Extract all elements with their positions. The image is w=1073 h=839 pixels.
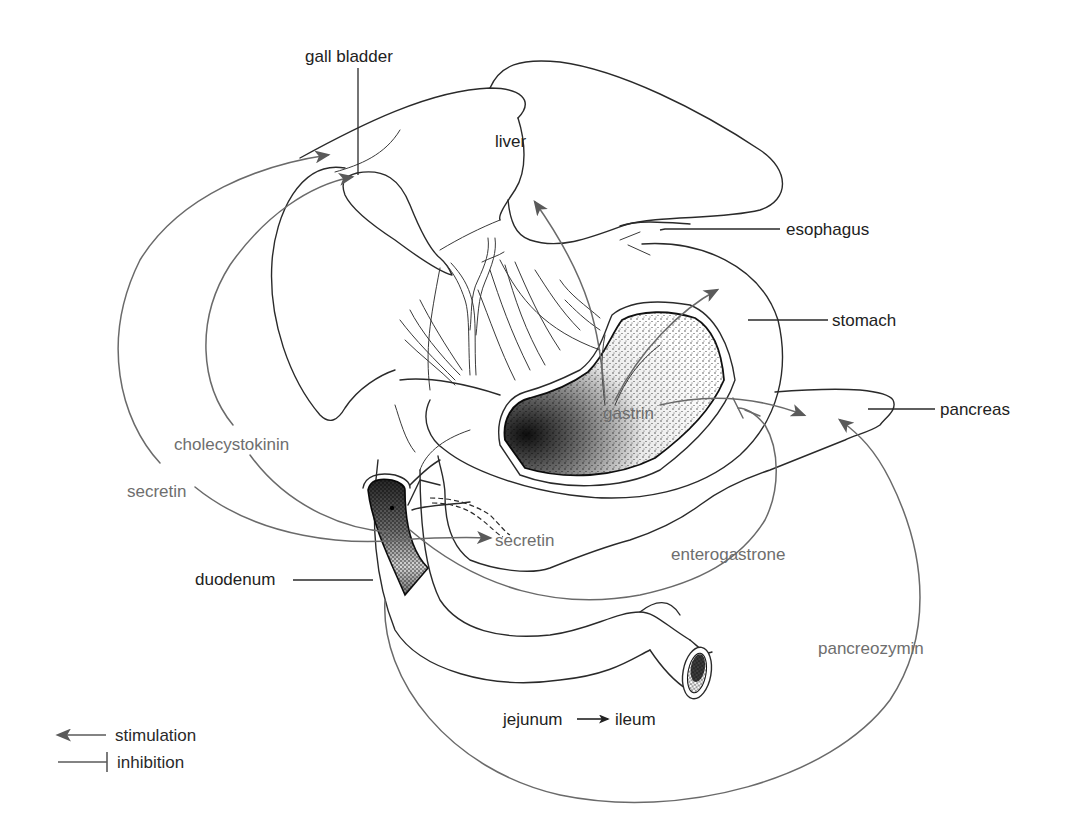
- legend-inhibition-label: inhibition: [117, 753, 184, 772]
- pancreozymin-to-pancreas-path: [385, 420, 920, 802]
- gall-bladder-label: gall bladder: [305, 47, 393, 66]
- secretin-to-liver-path: [118, 155, 328, 463]
- gastrin-label: gastrin: [603, 404, 654, 423]
- pancreas-label: pancreas: [940, 400, 1010, 419]
- secretin-pancreas-label: secretin: [495, 531, 555, 550]
- legend: stimulation inhibition: [58, 726, 196, 772]
- cholecystokinin-to-gallbladder-path: [206, 177, 352, 425]
- jejunum-label: jejunum: [502, 710, 563, 729]
- liver-label: liver: [495, 132, 527, 151]
- esophagus-leader: [660, 229, 780, 230]
- esophagus-label: esophagus: [786, 220, 869, 239]
- cholecystokinin-label: cholecystokinin: [174, 435, 289, 454]
- pancreozymin-label: pancreozymin: [818, 639, 924, 658]
- stomach-shape: [400, 222, 782, 498]
- stomach-label: stomach: [832, 311, 896, 330]
- gall-bladder-shape: [343, 172, 495, 375]
- ileum-label: ileum: [615, 710, 656, 729]
- duodenum-label: duodenum: [195, 570, 275, 589]
- digestive-hormone-diagram: gall bladder liver esophagus stomach pan…: [0, 0, 1073, 839]
- secretin-left-label: secretin: [127, 482, 187, 501]
- legend-stimulation-label: stimulation: [115, 726, 196, 745]
- enterogastrone-label: enterogastrone: [671, 545, 785, 564]
